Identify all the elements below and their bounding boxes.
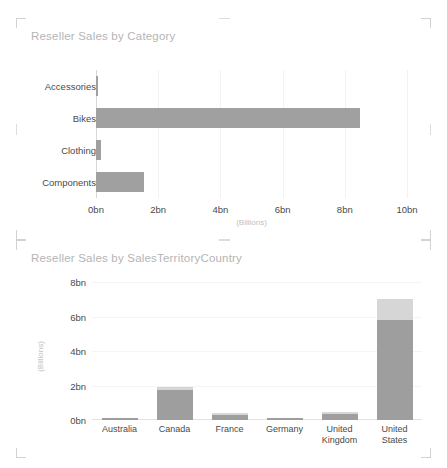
stacked-bar[interactable] bbox=[157, 387, 193, 420]
value-axis-tick-label-2: 4bn bbox=[50, 346, 86, 357]
bar-segment[interactable] bbox=[212, 415, 248, 420]
category-axis-label[interactable]: Accessories bbox=[28, 81, 96, 92]
gridline bbox=[220, 70, 221, 198]
stacked-bar[interactable] bbox=[322, 414, 358, 420]
visual-tile-reseller-sales-by-salesterritorycountry[interactable]: Reseller Sales by SalesTerritoryCountry … bbox=[16, 240, 431, 458]
bar[interactable] bbox=[96, 172, 144, 192]
category-axis-label-2[interactable]: United Kingdom bbox=[314, 424, 365, 446]
gridline bbox=[92, 317, 422, 318]
value-axis-tick-label: 6bn bbox=[275, 204, 291, 215]
value-axis-tick-label: 10bn bbox=[396, 204, 417, 215]
stacked-bar[interactable] bbox=[102, 418, 138, 420]
value-axis-tick-labels-2: 0bn2bn4bn6bn8bn bbox=[50, 282, 86, 420]
value-axis-tick-label-2: 0bn bbox=[50, 415, 86, 426]
bar-segment[interactable] bbox=[322, 414, 358, 420]
stacked-bar[interactable] bbox=[267, 418, 303, 420]
value-axis-tick-label: 2bn bbox=[150, 204, 166, 215]
value-axis-tick-label: 4bn bbox=[212, 204, 228, 215]
gridline bbox=[92, 386, 422, 387]
category-axis-label-2[interactable]: Australia bbox=[94, 424, 145, 435]
gridline bbox=[345, 70, 346, 198]
bar-segment[interactable] bbox=[102, 418, 138, 420]
bar-segment[interactable] bbox=[377, 320, 413, 420]
gridline bbox=[92, 282, 422, 283]
bar-segment[interactable] bbox=[322, 412, 358, 414]
category-axis-label-2[interactable]: Canada bbox=[149, 424, 200, 435]
bar-segment[interactable] bbox=[377, 299, 413, 320]
gridline bbox=[158, 70, 159, 198]
gridline bbox=[92, 351, 422, 352]
value-axis-tick-label-2: 8bn bbox=[50, 277, 86, 288]
category-axis-label-2[interactable]: United States bbox=[369, 424, 420, 446]
bar-segment[interactable] bbox=[157, 387, 193, 390]
gridline bbox=[283, 70, 284, 198]
value-axis-caption-2: (Billions) bbox=[36, 341, 45, 372]
category-axis-label-2[interactable]: Germany bbox=[259, 424, 310, 435]
category-axis-label[interactable]: Clothing bbox=[28, 145, 96, 156]
category-axis-label[interactable]: Bikes bbox=[28, 113, 96, 124]
bar[interactable] bbox=[96, 140, 101, 160]
stacked-bar[interactable] bbox=[212, 415, 248, 420]
value-axis-tick-label: 8bn bbox=[337, 204, 353, 215]
stacked-bar[interactable] bbox=[377, 299, 413, 420]
vertical-bar-plot-area bbox=[92, 282, 422, 420]
value-axis-tick-label-2: 2bn bbox=[50, 380, 86, 391]
bar-segment[interactable] bbox=[267, 418, 303, 420]
value-axis-tick-labels: 0bn2bn4bn6bn8bn10bn bbox=[96, 204, 407, 218]
category-axis-baseline bbox=[92, 419, 422, 420]
bar-segment[interactable] bbox=[212, 413, 248, 415]
horizontal-bar-plot-area bbox=[96, 70, 407, 198]
category-axis-label[interactable]: Components bbox=[28, 177, 96, 188]
value-axis-tick-label-2: 6bn bbox=[50, 311, 86, 322]
visual-tile-reseller-sales-by-category[interactable]: Reseller Sales by Category AccessoriesBi… bbox=[16, 18, 431, 240]
gridline bbox=[407, 70, 408, 198]
category-axis-labels-2: AustraliaCanadaFranceGermanyUnited Kingd… bbox=[92, 424, 422, 454]
category-axis-labels: AccessoriesBikesClothingComponents bbox=[28, 70, 96, 198]
bar-segment[interactable] bbox=[157, 390, 193, 420]
bar[interactable] bbox=[96, 76, 98, 96]
value-axis-tick-label: 0bn bbox=[88, 204, 104, 215]
vertical-stacked-bar-chart: 0bn2bn4bn6bn8bn (Billions) AustraliaCana… bbox=[16, 240, 431, 458]
category-axis-label-2[interactable]: France bbox=[204, 424, 255, 435]
horizontal-bar-chart: AccessoriesBikesClothingComponents 0bn2b… bbox=[16, 18, 431, 240]
value-axis-caption: (Billions) bbox=[96, 218, 407, 227]
bar[interactable] bbox=[96, 108, 360, 128]
